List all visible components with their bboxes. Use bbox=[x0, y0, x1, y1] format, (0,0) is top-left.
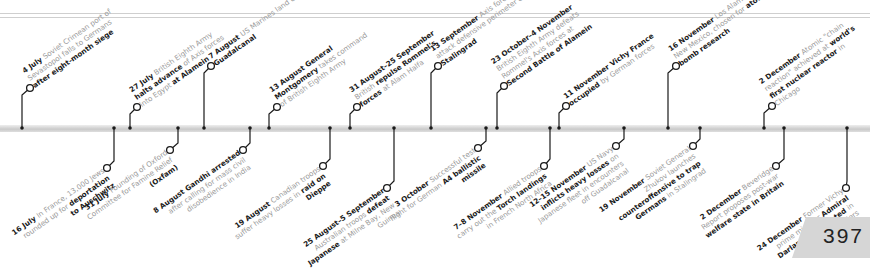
event-marker bbox=[690, 126, 702, 149]
event-marker bbox=[320, 126, 332, 169]
event-marker bbox=[267, 104, 280, 130]
event-marker bbox=[613, 126, 626, 149]
event-marker bbox=[104, 126, 116, 171]
event-marker bbox=[20, 85, 33, 130]
event-marker bbox=[557, 103, 569, 130]
event-marker bbox=[495, 83, 507, 130]
event-marker bbox=[762, 103, 775, 130]
event-marker bbox=[843, 126, 850, 191]
event-marker bbox=[666, 63, 679, 130]
event-marker bbox=[128, 104, 140, 130]
event-marker bbox=[167, 126, 180, 153]
event-marker bbox=[202, 63, 214, 130]
event-marker bbox=[773, 126, 786, 169]
event-marker bbox=[384, 126, 396, 191]
event-marker bbox=[475, 126, 488, 151]
event-marker bbox=[429, 63, 441, 130]
event-marker bbox=[240, 126, 252, 153]
event-marker bbox=[541, 126, 552, 169]
event-marker bbox=[348, 104, 360, 130]
